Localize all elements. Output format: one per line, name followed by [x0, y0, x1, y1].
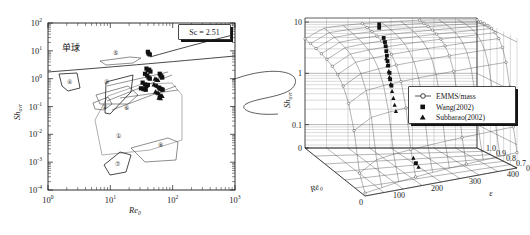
figure-container: 100101102103 10210110010-110-210-310-4 R… — [0, 0, 530, 235]
panel-connector — [0, 0, 530, 235]
connector-curve — [232, 71, 296, 114]
